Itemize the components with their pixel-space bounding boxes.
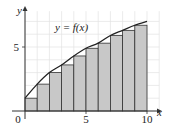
riemann-bar: [135, 25, 147, 111]
riemann-bar: [123, 30, 135, 111]
x-tick-label: 5: [83, 113, 89, 125]
riemann-bar: [86, 48, 98, 111]
y-tick-label: 5: [14, 41, 20, 53]
riemann-bar: [74, 56, 86, 111]
riemann-bar: [98, 43, 110, 111]
riemann-bar: [62, 65, 74, 111]
x-axis-label: x: [156, 106, 162, 118]
x-tick-label: 0: [15, 113, 21, 125]
curve-label: y = f(x): [54, 21, 88, 34]
riemann-bar: [37, 84, 49, 111]
y-axis-arrow-icon: [23, 6, 28, 11]
riemann-bar: [25, 98, 37, 111]
riemann-bar: [49, 73, 61, 111]
riemann-sum-chart: 05105 x y y = f(x): [0, 0, 171, 137]
x-tick-label: 10: [142, 113, 154, 125]
riemann-bar: [110, 35, 122, 111]
y-axis-label: y: [16, 4, 22, 16]
